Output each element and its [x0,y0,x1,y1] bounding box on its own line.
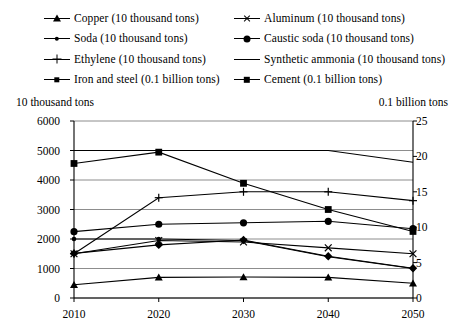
legend-entry: Caustic soda (10 thousand tons) [234,32,434,45]
square-marker [240,180,247,187]
legend-label: Iron and steel (0.1 billion tons) [74,73,220,86]
legend-entry: Aluminum (10 thousand tons) [234,12,434,25]
plot-area: 6000500040003000200010000 2520151050 201… [0,112,457,331]
large-dot-marker [155,221,162,228]
legend-entry: Soda (10 thousand tons) [44,32,234,45]
square-marker [410,228,417,235]
legend-entry: Synthetic ammonia (10 thousand tons) [234,53,434,66]
legend-label: Caustic soda (10 thousand tons) [264,32,414,45]
diamond-marker [155,241,163,249]
large-dot-marker [70,228,77,235]
x-marker [234,12,260,24]
chart-screenshot: Copper (10 thousand tons)Aluminum (10 th… [0,0,457,331]
square-marker [155,149,162,156]
small-dot-marker [156,237,161,242]
diamond-marker [324,252,332,260]
large-dot-marker [240,219,247,226]
diamond-marker [44,74,70,86]
legend-label: Ethylene (10 thousand tons) [74,53,206,66]
large-dot-marker [234,33,260,45]
legend-label: Soda (10 thousand tons) [74,32,188,45]
legend-entry: Ethylene (10 thousand tons) [44,53,234,66]
legend-label: Aluminum (10 thousand tons) [264,12,405,25]
left-axis-unit-label: 10 thousand tons [16,96,94,108]
small-dot-marker [44,33,70,45]
chart-legend: Copper (10 thousand tons)Aluminum (10 th… [44,8,434,90]
legend-entry: Copper (10 thousand tons) [44,12,234,25]
series-line [74,240,413,268]
square-marker [234,74,260,86]
legend-entry: Iron and steel (0.1 billion tons) [44,73,234,86]
chart-plot [0,112,457,331]
large-dot-marker [325,218,332,225]
right-axis-unit-label: 0.1 billion tons [379,96,448,108]
legend-label: Copper (10 thousand tons) [74,12,199,25]
series-iron [70,236,417,273]
legend-label: Cement (0.1 billion tons) [264,73,382,86]
legend-label: Synthetic ammonia (10 thousand tons) [264,53,445,66]
diamond-marker [409,264,417,272]
plus-marker [44,53,70,65]
line-only-marker [234,53,260,65]
legend-entry: Cement (0.1 billion tons) [234,73,434,86]
series-caustic [70,218,416,236]
square-marker [71,160,78,167]
small-dot-marker [72,237,77,242]
series-copper [70,273,417,288]
triangle-marker [44,12,70,24]
square-marker [325,206,332,213]
diamond-marker [239,236,247,244]
